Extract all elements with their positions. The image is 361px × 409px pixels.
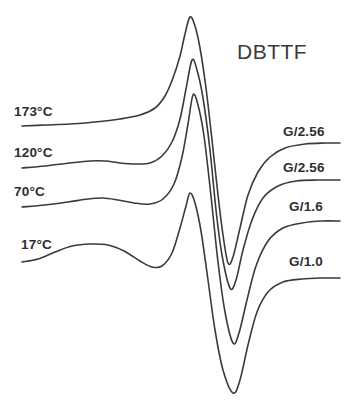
figure-title: DBTTF <box>237 40 307 64</box>
curve-label-gain-1: G/2.56 <box>283 124 325 139</box>
curve-label-temperature-70c: 70°C <box>14 184 45 199</box>
curve-label-gain-2: G/2.56 <box>283 160 325 175</box>
curve-label-temperature-173c: 173°C <box>14 104 53 119</box>
epr-spectrum-figure: DBTTF 173°C 120°C 70°C 17°C G/2.56 G/2.5… <box>0 0 361 409</box>
curve-label-gain-4: G/1.0 <box>289 254 323 269</box>
curve-label-gain-3: G/1.6 <box>289 199 323 214</box>
spectrum-curve-17c <box>22 193 340 393</box>
curve-label-temperature-17c: 17°C <box>21 237 52 252</box>
curve-label-temperature-120c: 120°C <box>14 145 53 160</box>
